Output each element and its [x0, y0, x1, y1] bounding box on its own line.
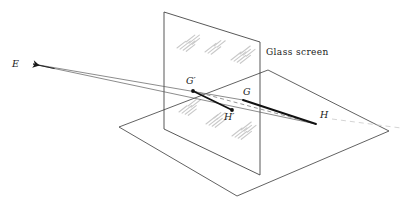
- label-h-prime: H′: [223, 111, 235, 122]
- label-glass-screen: Glass screen: [266, 47, 329, 57]
- glass-hatch-stroke: [209, 118, 218, 125]
- glass-hatch-stroke: [238, 132, 247, 139]
- glass-hatch-stroke: [186, 45, 195, 52]
- glass-hatch-stroke: [231, 52, 241, 60]
- label-e: E: [11, 58, 19, 69]
- glass-hatch-stroke: [180, 41, 190, 49]
- ground-plane: [119, 70, 389, 196]
- glass-hatch-stroke: [208, 47, 216, 53]
- diagram-canvas: E G′ G H′ H Glass screen: [0, 0, 407, 208]
- label-g: G: [243, 86, 251, 97]
- sight-ray-e-to-g: [33, 64, 243, 100]
- glass-hatch-stroke: [188, 100, 196, 106]
- eye-direction-arrow: [33, 64, 55, 69]
- glass-hatch-stroke: [240, 55, 250, 63]
- glass-hatch-stroke: [217, 41, 225, 47]
- label-g-prime: G′: [186, 75, 197, 86]
- label-h: H: [319, 109, 329, 120]
- glass-hatch-stroke: [182, 106, 191, 113]
- ground-plane-outline: [119, 70, 389, 196]
- glass-hatch-stroke: [188, 109, 196, 115]
- glass-hatch-stroke: [232, 128, 242, 136]
- glass-hatch-stroke: [211, 47, 220, 54]
- point-g-prime: [191, 89, 195, 93]
- glass-hatch-stroke: [241, 131, 251, 139]
- glass-hatch-stroke: [237, 56, 246, 63]
- perspective-projection-diagram: E G′ G H′ H Glass screen: [0, 0, 407, 208]
- glass-hatch-stroke: [179, 106, 187, 112]
- glass-hatch-stroke: [177, 41, 186, 48]
- object-segment-g-h: [243, 100, 316, 124]
- ground-line-extension: [332, 119, 401, 128]
